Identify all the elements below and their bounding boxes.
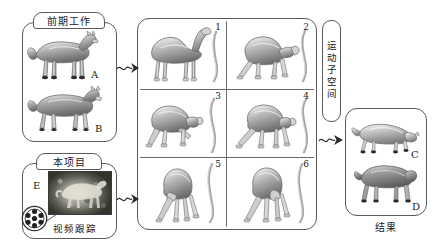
motion-subspace-label: 运动子空间 <box>327 41 337 101</box>
cell-number-6: 6 <box>303 159 309 169</box>
subspace-cell-4: 4 <box>227 90 314 159</box>
model-wolf-b <box>26 85 102 137</box>
subspace-cell-2: 2 <box>227 21 314 90</box>
results-caption: 结果 <box>345 219 427 234</box>
camel-pose-1 <box>144 26 227 88</box>
camel-pose-6 <box>231 162 314 226</box>
cell-number-3: 3 <box>215 91 221 101</box>
cell-number-4: 4 <box>303 91 309 101</box>
cell-number-2: 2 <box>303 22 309 32</box>
model-letter-a: A <box>91 69 98 80</box>
figure-canvas: 前期工作 <box>0 0 436 247</box>
subspace-cell-3: 3 <box>140 90 227 159</box>
motion-subspace-label-box: 运动子空间 <box>322 20 341 122</box>
video-tracking-label: 视频跟踪 <box>53 221 97 235</box>
model-letter-e: E <box>33 180 40 191</box>
model-letter-c: C <box>411 149 419 160</box>
arrow-prev-to-grid <box>116 60 140 76</box>
subspace-cell-5: 5 <box>140 158 227 227</box>
arrow-grid-to-results <box>318 132 344 148</box>
camel-pose-3 <box>142 95 226 157</box>
camel-pose-5 <box>146 162 227 226</box>
subspace-cell-1: 1 <box>140 21 227 90</box>
film-reel-icon <box>21 205 48 232</box>
camel-pose-4 <box>230 95 314 157</box>
model-wolf-a <box>25 29 99 85</box>
motion-subspace-grid: 1 <box>140 21 314 227</box>
model-letter-d: D <box>412 201 420 212</box>
video-frame-thumbnail <box>48 171 112 215</box>
cell-number-5: 5 <box>215 159 221 169</box>
arrow-project-to-grid <box>116 191 140 207</box>
motion-subspace-panel: 1 <box>137 18 317 230</box>
previous-work-tab-label: 前期工作 <box>33 12 105 29</box>
cell-number-1: 1 <box>215 22 221 32</box>
model-letter-b: B <box>95 123 102 134</box>
tracked-dog-silhouette <box>49 172 111 214</box>
camel-pose-2 <box>230 26 314 88</box>
results-panel: C D <box>345 108 427 216</box>
previous-work-panel: A B <box>22 22 117 142</box>
subspace-cell-6: 6 <box>227 158 314 227</box>
this-project-tab-label: 本项目 <box>36 153 102 170</box>
